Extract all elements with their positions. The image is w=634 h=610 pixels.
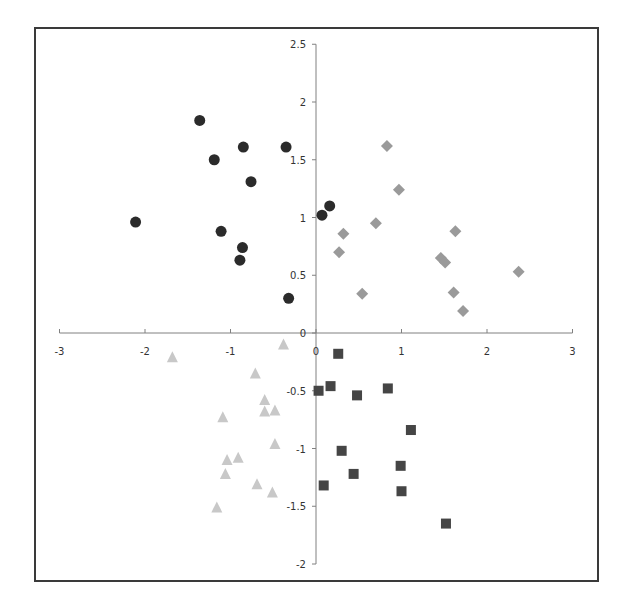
data-markers [130,115,525,529]
y-tick-label: 2.5 [290,39,306,50]
diamond-marker [370,217,382,229]
triangle-marker [259,394,270,405]
x-tick-label: 3 [569,346,575,357]
triangle-marker [211,501,222,512]
diamond-marker [356,288,368,300]
diamond-marker [457,305,469,317]
y-tick-label: -2 [296,559,306,570]
x-tick-label: -1 [226,346,236,357]
square-marker [383,383,393,393]
square-marker [397,486,407,496]
circle-marker [234,255,245,266]
square-marker [337,446,347,456]
triangle-marker [217,411,228,422]
square-marker [333,349,343,359]
y-tick-label: 0.5 [290,270,306,281]
square-marker [326,381,336,391]
triangle-marker [259,406,270,417]
scatter-plot: -3-2-101232.521.510.50-0.5-1-1.5-2 [0,0,634,610]
square-marker [319,480,329,490]
triangle-marker [269,404,280,415]
square-marker [396,461,406,471]
triangle-marker [269,438,280,449]
circle-marker [209,154,220,165]
circle-marker [246,176,257,187]
axes: -3-2-101232.521.510.50-0.5-1-1.5-2 [55,39,576,570]
diamond-marker [513,266,525,278]
square-marker [352,390,362,400]
circle-marker [237,242,248,253]
square-marker [406,425,416,435]
y-tick-label: -1.5 [286,501,306,512]
diamond-marker [393,184,405,196]
triangle-marker [222,454,233,465]
circle-marker [324,200,335,211]
diamond-marker [333,246,345,258]
y-tick-label: 0 [300,328,306,339]
diamond-marker [381,140,393,152]
square-marker [441,519,451,529]
x-tick-label: -2 [140,346,150,357]
diamond-marker [337,228,349,240]
y-tick-label: 1.5 [290,155,306,166]
circle-marker [130,217,141,228]
triangle-marker [278,339,289,350]
triangle-marker [250,367,261,378]
x-tick-label: 2 [484,346,490,357]
triangle-marker [220,468,231,479]
y-tick-label: -0.5 [286,386,306,397]
circle-marker [281,142,292,153]
circle-marker [283,293,294,304]
y-tick-label: -1 [296,444,306,455]
diamond-marker [448,287,460,299]
y-tick-label: 2 [300,97,306,108]
circle-marker [316,210,327,221]
triangle-marker [167,351,178,362]
circle-marker [216,226,227,237]
diamond-marker [449,225,461,237]
triangle-marker [267,486,278,497]
x-tick-label: 0 [313,346,319,357]
x-tick-label: 1 [398,346,404,357]
circle-marker [238,142,249,153]
y-tick-label: 1 [300,213,306,224]
x-tick-label: -3 [55,346,65,357]
triangle-marker [252,478,263,489]
triangle-marker [233,452,244,463]
circle-marker [194,115,205,126]
square-marker [349,469,359,479]
square-marker [314,386,324,396]
